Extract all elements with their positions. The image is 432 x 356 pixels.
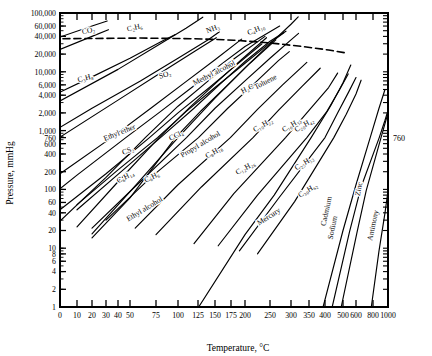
- x-tick-label: 350: [303, 311, 315, 320]
- x-tick-label: 125: [192, 311, 204, 320]
- x-tick-label: 250: [264, 311, 276, 320]
- x-tick-label: 800: [367, 311, 379, 320]
- x-tick-label: 200: [239, 311, 251, 320]
- x-tick-label: 300: [285, 311, 297, 320]
- y-tick-label: 4,000: [38, 91, 56, 100]
- x-tick-label: 600: [350, 311, 362, 320]
- x-tick-label: 1000: [380, 311, 396, 320]
- y-tick-label: 40: [48, 209, 56, 218]
- x-tick-label: 40: [114, 311, 122, 320]
- right-axis-label-760: 760: [393, 134, 405, 143]
- x-axis-title: Temperature, °C: [207, 343, 270, 353]
- x-tick-label: 100: [172, 311, 184, 320]
- y-tick-label: 40,000: [35, 32, 57, 41]
- x-tick-label: 75: [152, 311, 160, 320]
- y-tick-label: 6,000: [38, 81, 56, 90]
- y-tick-label: 2: [52, 285, 56, 294]
- x-tick-label: 175: [225, 311, 237, 320]
- x-tick-label: 400: [319, 311, 331, 320]
- chart-canvas: CO₂CO₂C₂H₆C₂H₆NH₃NH₃C₃H₈C₃H₈SO₂SO₂C₄H₁₀C…: [0, 0, 432, 356]
- y-tick-label: 60: [48, 198, 56, 207]
- x-tick-label: 500: [337, 311, 349, 320]
- y-tick-label: 20: [48, 226, 56, 235]
- y-tick-label: 400: [44, 150, 56, 159]
- cox-chart-figure: CO₂CO₂C₂H₆C₂H₆NH₃NH₃C₃H₈C₃H₈SO₂SO₂C₄H₁₀C…: [0, 0, 432, 356]
- y-tick-label: 20,000: [35, 50, 57, 59]
- y-tick-label: 1: [52, 303, 56, 312]
- y-tick-label: 4: [52, 267, 56, 276]
- x-tick-label: 30: [102, 311, 110, 320]
- plot-background: [60, 13, 388, 307]
- y-tick-label: 200: [44, 168, 56, 177]
- y-tick-label: 6: [52, 257, 56, 266]
- y-axis-title: Pressure, mmHg: [5, 113, 15, 233]
- x-tick-label: 20: [88, 311, 96, 320]
- x-tick-label: 150: [209, 311, 221, 320]
- x-axis-title-wrap: Temperature, °C: [0, 343, 432, 353]
- y-tick-label: 60,000: [35, 22, 57, 31]
- y-tick-label: 600: [44, 140, 56, 149]
- y-tick-label: 2,000: [38, 109, 56, 118]
- y-tick-label: 10,000: [35, 68, 57, 77]
- x-tick-label: 10: [73, 311, 81, 320]
- y-tick-label: 100: [44, 185, 56, 194]
- x-tick-label: 0: [58, 311, 62, 320]
- y-axis-title-wrap: Pressure, mmHg: [2, 0, 18, 356]
- y-tick-label: 100,000: [31, 9, 56, 18]
- x-tick-label: 50: [126, 311, 134, 320]
